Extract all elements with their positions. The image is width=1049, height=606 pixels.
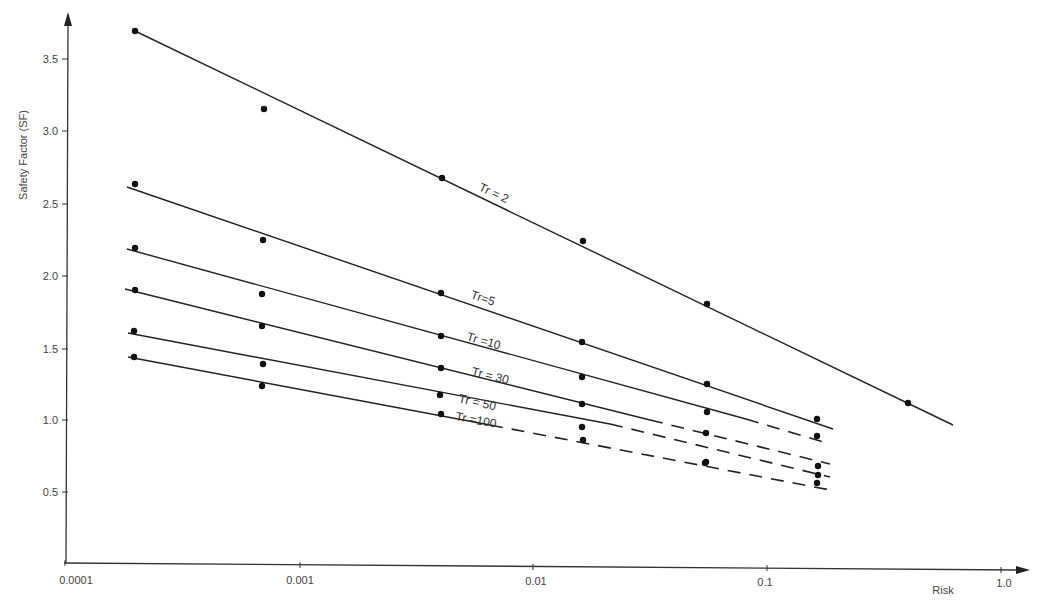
series-label-tr-10: Tr =10 xyxy=(465,329,502,352)
safety-factor-vs-risk-chart: 3.5 3.0 2.5 2.0 1.5 1.0 0.5 0.0001 0.001… xyxy=(0,0,1049,606)
y-tick-label: 1.5 xyxy=(43,343,58,355)
y-axis xyxy=(64,12,72,563)
x-axis-title: Risk xyxy=(932,584,954,596)
y-tick-label: 2.5 xyxy=(43,198,58,210)
y-tick-label: 3.5 xyxy=(43,53,58,65)
x-tick-label: 0.1 xyxy=(757,576,772,588)
x-tick-label: 0.0001 xyxy=(59,574,93,586)
y-tick-label: 1.0 xyxy=(43,414,58,426)
y-tick-label: 2.0 xyxy=(43,270,58,282)
x-tick-label: 0.01 xyxy=(525,575,546,587)
series-tr-2: Tr = 2 xyxy=(132,28,953,425)
y-tick-label: 3.0 xyxy=(43,125,58,137)
x-tick-label: 0.001 xyxy=(286,574,314,586)
series-tr-5: Tr=5 xyxy=(127,181,833,429)
x-axis xyxy=(64,563,1030,574)
y-ticks: 3.5 3.0 2.5 2.0 1.5 1.0 0.5 xyxy=(43,53,68,498)
y-tick-label: 0.5 xyxy=(43,486,58,498)
y-axis-arrow-icon xyxy=(64,12,72,26)
y-axis-title: Safety Factor (SF) xyxy=(17,110,29,200)
x-tick-label: 1.0 xyxy=(996,577,1011,589)
series-label-tr-30: Tr = 30 xyxy=(470,364,510,387)
x-axis-arrow-icon xyxy=(1016,566,1030,574)
series-tr-50: Tr = 50 xyxy=(128,328,830,478)
series-label-tr-2: Tr = 2 xyxy=(477,180,512,206)
